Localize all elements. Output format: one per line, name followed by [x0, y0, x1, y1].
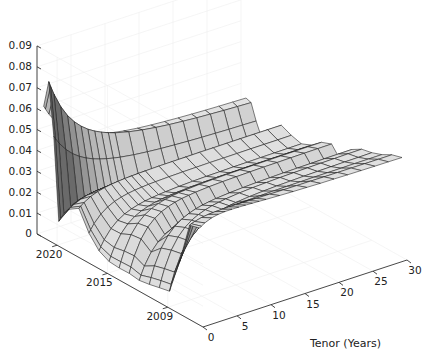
tenor-tick [373, 271, 377, 274]
z-tick [37, 67, 41, 69]
tenor-tick [271, 305, 275, 308]
z-tick-label: 0.02 [9, 186, 32, 198]
z-tick [37, 88, 41, 90]
date-tick-label: 2009 [146, 310, 173, 322]
date-tick [102, 273, 107, 275]
z-tick-label: 0 [25, 227, 32, 239]
z-tick [37, 150, 41, 152]
tenor-tick [339, 282, 343, 285]
z-tick [37, 213, 41, 215]
tenor-tick-label: 15 [306, 298, 319, 310]
z-tick-label: 0.06 [9, 102, 33, 114]
z-tick-label: 0.07 [9, 81, 32, 93]
tenor-tick [203, 327, 207, 330]
surface-plot [44, 82, 402, 292]
date-tick [52, 245, 57, 247]
z-tick-label: 0.04 [9, 144, 33, 156]
z-tick-label: 0.09 [9, 39, 32, 51]
z-tick [37, 171, 41, 173]
tenor-tick-label: 25 [374, 275, 387, 287]
z-tick-label: 0.08 [9, 60, 32, 72]
tenor-tick [407, 260, 411, 263]
tenor-tick-label: 10 [272, 309, 285, 321]
z-tick-label: 0.05 [9, 123, 32, 135]
tenor-tick [305, 294, 309, 297]
x-axis-title: Tenor (Years) [309, 337, 381, 350]
tenor-tick-label: 30 [408, 264, 421, 276]
z-axis-rate: 00.010.020.030.040.050.060.070.080.09 [9, 39, 41, 239]
tenor-tick-label: 0 [208, 331, 215, 343]
date-tick-label: 2015 [86, 276, 113, 288]
z-tick [37, 46, 41, 48]
x-axis-tenor: 051015202530 [203, 260, 422, 343]
z-tick [37, 129, 41, 131]
z-tick-label: 0.01 [9, 207, 32, 219]
tenor-tick [237, 316, 241, 319]
z-tick-label: 0.03 [9, 165, 32, 177]
z-tick [37, 109, 41, 111]
yield-surface-chart: 00.010.020.030.040.050.060.070.080.09 20… [0, 0, 437, 356]
date-tick [163, 307, 168, 309]
tenor-tick-label: 5 [242, 320, 249, 332]
z-tick [37, 192, 41, 194]
date-tick-label: 2020 [36, 248, 63, 260]
tenor-tick-label: 20 [340, 286, 353, 298]
